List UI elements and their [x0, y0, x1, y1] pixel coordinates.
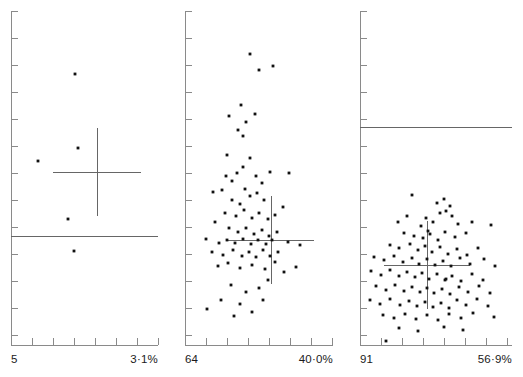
data-point [282, 206, 285, 209]
data-point [471, 273, 474, 276]
data-point [240, 104, 243, 107]
data-point [449, 205, 452, 208]
data-point [243, 209, 246, 212]
data-point [258, 287, 261, 290]
data-point [233, 315, 236, 318]
data-point [241, 255, 244, 258]
data-point [255, 175, 258, 178]
data-point [458, 286, 461, 289]
data-point [239, 303, 242, 306]
data-point [268, 235, 271, 238]
data-point [409, 243, 412, 246]
data-point [451, 275, 454, 278]
data-point [245, 227, 248, 230]
data-point [422, 237, 425, 240]
data-point [214, 221, 217, 224]
data-point [418, 263, 421, 266]
data-point [436, 273, 439, 276]
data-point [253, 233, 256, 236]
data-point [226, 154, 229, 157]
data-point [403, 232, 406, 235]
data-point [447, 253, 450, 256]
data-point [398, 275, 401, 278]
data-point [419, 291, 422, 294]
data-point [445, 210, 448, 213]
data-point [382, 314, 385, 317]
data-point [277, 251, 280, 254]
data-point [206, 308, 209, 311]
data-point [460, 280, 463, 283]
data-point [379, 303, 382, 306]
data-point [416, 305, 419, 308]
data-point [445, 278, 448, 281]
panel-1 [11, 11, 158, 345]
data-point [389, 298, 392, 301]
data-point [437, 319, 440, 322]
data-point [467, 291, 470, 294]
data-point [399, 304, 402, 307]
data-point [450, 265, 453, 268]
data-point [476, 298, 479, 301]
panel-1-x-axis-min-label: 5 [11, 353, 18, 365]
panel-3 [360, 11, 512, 345]
data-point [276, 231, 279, 234]
data-point [295, 266, 298, 269]
data-point [489, 292, 492, 295]
data-point [287, 241, 290, 244]
data-point [421, 272, 424, 275]
data-point [235, 215, 238, 218]
data-point [494, 265, 497, 268]
data-point [444, 231, 447, 234]
data-point [221, 189, 224, 192]
data-point [413, 235, 416, 238]
data-point [267, 218, 270, 221]
data-point [249, 157, 252, 160]
data-point [217, 265, 220, 268]
data-point [441, 288, 444, 291]
data-point [429, 233, 432, 236]
data-point [432, 306, 435, 309]
data-point [205, 238, 208, 241]
data-point [460, 317, 463, 320]
data-point [263, 199, 266, 202]
panel-2-x-axis-min-label: 64 [185, 353, 198, 365]
data-point [439, 246, 442, 249]
data-point [67, 218, 70, 221]
data-point [414, 276, 417, 279]
data-point [274, 214, 277, 217]
data-point [456, 248, 459, 251]
data-point [224, 212, 227, 215]
data-point [493, 316, 496, 319]
data-point [393, 255, 396, 258]
data-point [426, 314, 429, 317]
data-point [373, 256, 376, 259]
data-point [436, 202, 439, 205]
data-point [398, 327, 401, 330]
data-point [411, 194, 414, 197]
data-point [448, 307, 451, 310]
data-point [408, 300, 411, 303]
data-point [226, 239, 229, 242]
data-point [424, 301, 427, 304]
data-point [462, 329, 465, 332]
data-point [406, 271, 409, 274]
data-point [411, 257, 414, 260]
data-point [490, 224, 493, 227]
data-point [231, 180, 234, 183]
data-point [222, 254, 225, 257]
data-point [73, 250, 76, 253]
data-point [254, 113, 257, 116]
data-point [426, 287, 429, 290]
data-point [244, 188, 247, 191]
data-point [242, 135, 245, 138]
data-point [258, 212, 261, 215]
data-point [249, 53, 252, 56]
data-point [74, 73, 77, 76]
data-point [264, 268, 267, 271]
data-point [443, 326, 446, 329]
data-point [234, 242, 237, 245]
data-point [228, 227, 231, 230]
data-point [239, 267, 242, 270]
data-point [457, 223, 460, 226]
data-point [251, 217, 254, 220]
